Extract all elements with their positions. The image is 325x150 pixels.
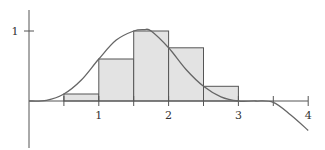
bar-4	[204, 86, 239, 101]
x-tick-label: 2	[165, 109, 172, 122]
x-tick-label: 1	[95, 109, 102, 122]
riemann-sum-chart: 1234 1	[0, 0, 325, 150]
bars	[64, 31, 239, 101]
x-tick-label: 4	[305, 109, 312, 122]
y-ticks: 1	[12, 25, 35, 38]
bar-0	[64, 94, 99, 101]
y-tick-label: 1	[12, 25, 19, 38]
x-tick-label: 3	[235, 109, 242, 122]
bar-3	[169, 48, 204, 101]
bar-1	[99, 59, 134, 101]
